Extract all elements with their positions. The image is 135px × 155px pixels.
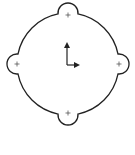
center-mark-top xyxy=(66,13,71,18)
center-mark-bottom xyxy=(66,111,71,116)
diagram-canvas xyxy=(0,0,135,155)
lobed-circle-diagram xyxy=(0,0,135,155)
center-mark-right xyxy=(117,62,122,67)
profile-outline xyxy=(7,3,129,125)
center-marks xyxy=(15,13,122,116)
lobed-outline-path xyxy=(7,3,129,125)
coordinate-axes xyxy=(67,45,77,65)
center-mark-left xyxy=(15,62,20,67)
